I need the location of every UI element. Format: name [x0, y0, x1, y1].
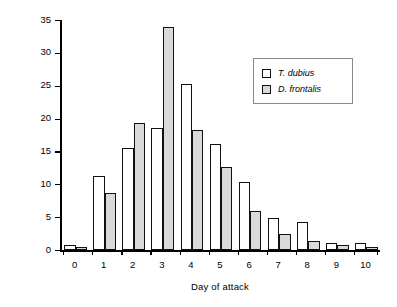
- x-tick-label: 4: [176, 259, 206, 270]
- x-tick-label: 10: [350, 259, 380, 270]
- x-axis-line: [60, 250, 380, 252]
- y-tick-label: 0: [29, 244, 51, 255]
- legend-item-d-frontalis: D. frontalis: [262, 81, 344, 97]
- bar: [151, 128, 162, 250]
- legend-label-t-dubius: T. dubius: [278, 68, 314, 78]
- bar-group-container: [61, 20, 380, 250]
- bar: [366, 247, 377, 250]
- y-tick-label: 25: [29, 79, 51, 90]
- y-tick-label: 20: [29, 112, 51, 123]
- bar: [250, 211, 261, 250]
- chart-figure: Per cent of catch 05101520253035 0123456…: [0, 0, 397, 307]
- y-tick-label: 30: [29, 46, 51, 57]
- x-tick-label: 3: [147, 259, 177, 270]
- bar: [297, 222, 308, 250]
- x-tick-label: 9: [321, 259, 351, 270]
- bar: [93, 176, 104, 250]
- legend-item-t-dubius: T. dubius: [262, 65, 344, 81]
- bar: [355, 243, 366, 250]
- plot-area: 05101520253035 012345678910: [60, 20, 380, 250]
- bar: [239, 182, 250, 250]
- bar: [279, 234, 290, 250]
- bar: [210, 144, 221, 250]
- y-tick: 0: [55, 250, 60, 251]
- x-tick: [121, 250, 122, 255]
- bar: [163, 27, 174, 250]
- y-tick: 10: [55, 184, 60, 185]
- bar: [134, 123, 145, 250]
- y-tick: 15: [55, 151, 60, 152]
- legend-swatch-d-frontalis: [262, 85, 271, 94]
- bar: [308, 241, 319, 250]
- bar: [122, 148, 133, 250]
- x-tick-label: 7: [263, 259, 293, 270]
- x-tick: [296, 250, 297, 255]
- x-tick: [354, 250, 355, 255]
- bar: [64, 245, 75, 250]
- legend-label-d-frontalis: D. frontalis: [278, 84, 321, 94]
- bar: [76, 247, 87, 250]
- x-tick: [92, 250, 93, 255]
- y-tick: 35: [55, 20, 60, 21]
- bar: [337, 245, 348, 250]
- x-tick-label: 5: [205, 259, 235, 270]
- y-tick: 20: [55, 119, 60, 120]
- y-tick-label: 15: [29, 145, 51, 156]
- x-tick: [238, 250, 239, 255]
- bar: [181, 84, 192, 250]
- x-tick: [377, 250, 378, 255]
- bar: [221, 167, 232, 250]
- x-tick: [267, 250, 268, 255]
- y-tick-label: 35: [29, 14, 51, 25]
- x-tick-label: 1: [89, 259, 119, 270]
- x-tick: [180, 250, 181, 255]
- x-tick: [209, 250, 210, 255]
- y-tick: 25: [55, 86, 60, 87]
- bar: [192, 130, 203, 250]
- y-tick: 5: [55, 217, 60, 218]
- bar: [105, 193, 116, 250]
- chart-legend: T. dubius D. frontalis: [253, 58, 353, 104]
- bar: [326, 243, 337, 250]
- x-tick: [150, 250, 151, 255]
- x-tick: [325, 250, 326, 255]
- legend-swatch-t-dubius: [262, 69, 271, 78]
- x-tick-label: 0: [60, 259, 90, 270]
- x-tick-label: 2: [118, 259, 148, 270]
- y-tick-label: 10: [29, 178, 51, 189]
- x-axis-title: Day of attack: [60, 281, 380, 292]
- bar: [268, 218, 279, 250]
- x-tick: [63, 250, 64, 255]
- y-tick-label: 5: [29, 211, 51, 222]
- y-tick: 30: [55, 53, 60, 54]
- x-tick-label: 6: [234, 259, 264, 270]
- x-tick-label: 8: [292, 259, 322, 270]
